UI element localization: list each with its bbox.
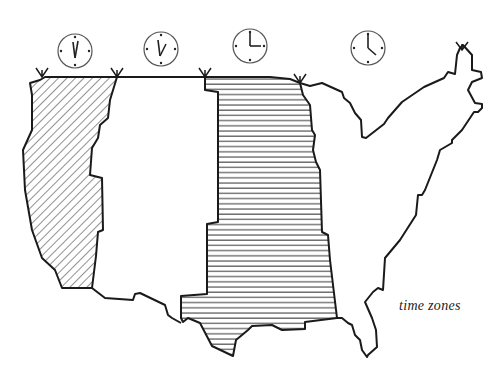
mountain-zone bbox=[92, 288, 181, 323]
central-zone bbox=[181, 77, 337, 356]
clock-central bbox=[233, 29, 267, 63]
clock-pacific bbox=[58, 34, 92, 68]
time-zones-map bbox=[0, 0, 504, 378]
pacific-zone bbox=[23, 77, 117, 288]
clock-mountain bbox=[144, 32, 178, 66]
caption-time-zones: time zones bbox=[399, 298, 461, 314]
clock-eastern bbox=[351, 31, 385, 65]
